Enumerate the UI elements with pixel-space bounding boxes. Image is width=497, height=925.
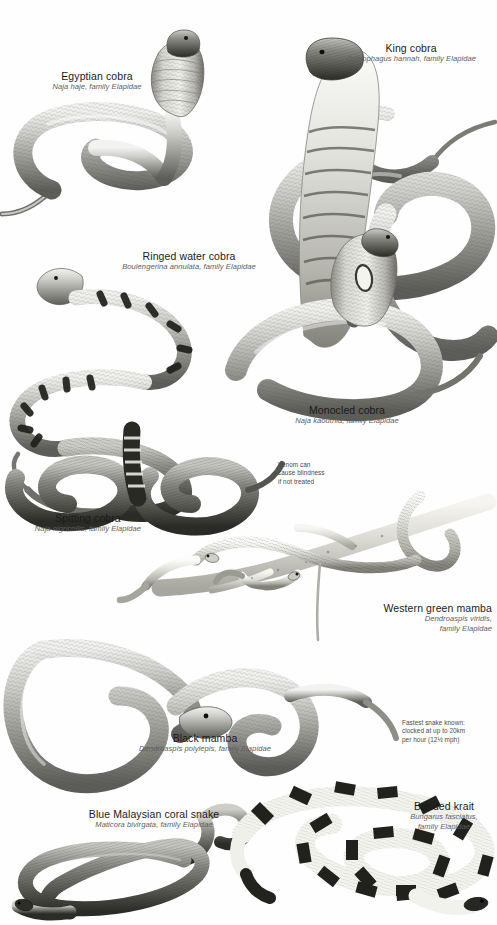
western-green-mamba-scientific-name-line2: family Elapidae [348,624,492,634]
ringed-water-cobra-common-name: Ringed water cobra [94,250,284,262]
spitting-cobra-scientific-name: Naja nigricollis, family Elapidae [8,524,168,534]
king-cobra-scientific-name: Ophiophagus hannah, family Elapidae [328,54,494,64]
black-mamba-illustration [0,640,400,800]
black-mamba-common-name: Black mamba [110,732,300,744]
label-spitting-cobra: Spitting cobra Naja nigricollis, family … [8,512,168,534]
egyptian-cobra-common-name: Egyptian cobra [22,70,172,82]
banded-krait-scientific-name-line1: Bungarus fasciatus, [392,812,496,822]
label-monocled-cobra: Monocled cobra Naja kaouthia, family Ela… [262,404,432,426]
venom-blindness-note-line1: Venom can [278,461,342,469]
fastest-snake-note: Fastest snake known: clocked at up to 20… [402,719,494,744]
monocled-cobra-scientific-name: Naja kaouthia, family Elapidae [262,416,432,426]
label-egyptian-cobra: Egyptian cobra Naja haje, family Elapida… [22,70,172,92]
fastest-snake-note-line3: per hour (12½ mph) [402,736,494,744]
label-blue-malaysian-coral-snake: Blue Malaysian coral snake Maticora bivi… [52,808,256,830]
label-king-cobra: King cobra Ophiophagus hannah, family El… [328,42,494,64]
blue-malaysian-coral-snake-scientific-name: Maticora bivirgata, family Elapidae [52,820,256,830]
label-black-mamba: Black mamba Dendroaspis polylepis, famil… [110,732,300,754]
label-banded-krait: Banded krait Bungarus fasciatus, family … [392,800,496,832]
label-ringed-water-cobra: Ringed water cobra Boulengerina annulata… [94,250,284,272]
venom-blindness-note-line2: cause blindness [278,469,342,477]
blue-malaysian-coral-snake-common-name: Blue Malaysian coral snake [52,808,256,820]
fastest-snake-note-line2: clocked at up to 20km [402,727,494,735]
banded-krait-scientific-name-line2: family Elapidae [392,822,496,832]
venom-blindness-note: Venom can cause blindness if not treated [278,461,342,486]
ringed-water-cobra-scientific-name: Boulengerina annulata, family Elapidae [94,262,284,272]
king-cobra-common-name: King cobra [328,42,494,54]
label-western-green-mamba: Western green mamba Dendroaspis viridis,… [348,602,492,634]
western-green-mamba-scientific-name-line1: Dendroaspis viridis, [348,614,492,624]
banded-krait-common-name: Banded krait [392,800,496,812]
monocled-cobra-common-name: Monocled cobra [262,404,432,416]
black-mamba-scientific-name: Dendroaspis polylepis, family Elapidae [110,744,300,754]
snake-reference-page: Egyptian cobra Naja haje, family Elapida… [0,0,497,925]
egyptian-cobra-scientific-name: Naja haje, family Elapidae [22,82,172,92]
venom-blindness-note-line3: if not treated [278,478,342,486]
fastest-snake-note-line1: Fastest snake known: [402,719,494,727]
spitting-cobra-common-name: Spitting cobra [8,512,168,524]
western-green-mamba-common-name: Western green mamba [348,602,492,614]
